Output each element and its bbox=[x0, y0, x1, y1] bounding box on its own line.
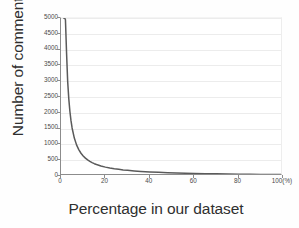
y-tick-mark bbox=[57, 128, 60, 129]
x-tick-label: 0 bbox=[58, 178, 62, 184]
y-tick-mark bbox=[57, 80, 60, 81]
y-tick-mark bbox=[57, 17, 60, 18]
y-tick-mark bbox=[57, 112, 60, 113]
y-tick-label: 4500 bbox=[32, 30, 58, 36]
y-tick-label: 3500 bbox=[32, 61, 58, 67]
chart-figure: Number of comments 050010001500200025003… bbox=[0, 0, 299, 228]
x-tick-label: 40 bbox=[145, 178, 152, 184]
y-tick-mark bbox=[57, 96, 60, 97]
plot-area bbox=[60, 17, 282, 175]
y-axis-title: Number of comments bbox=[9, 0, 27, 143]
y-tick-label: 0 bbox=[32, 172, 58, 178]
y-tick-label: 3000 bbox=[32, 77, 58, 83]
y-tick-mark bbox=[57, 33, 60, 34]
x-axis-title: Percentage in our dataset bbox=[40, 200, 272, 218]
y-tick-label: 5000 bbox=[32, 14, 58, 20]
y-tick-label: 500 bbox=[32, 156, 58, 162]
x-tick-label: 60 bbox=[190, 178, 197, 184]
y-tick-label: 1500 bbox=[32, 124, 58, 130]
x-tick-label: 20 bbox=[101, 178, 108, 184]
y-tick-mark bbox=[57, 64, 60, 65]
y-tick-mark bbox=[57, 159, 60, 160]
x-tick-label: 80 bbox=[234, 178, 241, 184]
y-tick-mark bbox=[57, 143, 60, 144]
comments-decay-curve bbox=[61, 18, 281, 174]
y-tick-label: 2000 bbox=[32, 109, 58, 115]
x-tick-label: 100(%) bbox=[272, 178, 292, 184]
y-tick-label: 2500 bbox=[32, 93, 58, 99]
y-axis-tick-labels: 0500100015002000250030003500400045005000 bbox=[30, 17, 58, 175]
series-container bbox=[61, 18, 281, 174]
y-tick-label: 1000 bbox=[32, 140, 58, 146]
y-tick-label: 4000 bbox=[32, 45, 58, 51]
x-axis-tick-labels: 020406080100(%) bbox=[60, 178, 282, 190]
y-tick-mark bbox=[57, 49, 60, 50]
